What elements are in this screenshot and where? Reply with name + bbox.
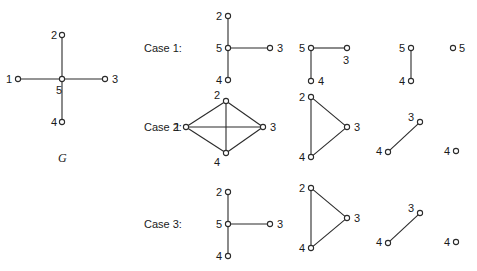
graph-node-case3-a-4 [225,253,230,258]
graph-node-G-4 [59,119,64,124]
graph-node-G-5 [59,76,64,81]
case-label-3: Case 3: [144,218,182,230]
node-label-G-5: 5 [56,84,62,96]
graph-node-case1-d-5 [450,45,455,50]
graph-node-case3-a-2 [225,189,230,194]
node-label-G-4: 4 [51,116,57,128]
node-label-case3-b-3: 3 [354,212,360,224]
graph-node-case2-d-4 [453,148,458,153]
graph-node-case3-a-3 [267,221,272,226]
node-label-case3-b-2: 2 [299,182,305,194]
graph-node-case2-a-4 [223,150,228,155]
node-label-case1-b-4: 4 [318,75,324,87]
graph-node-G-1 [15,76,20,81]
node-label-case1-a-4: 4 [216,74,222,86]
graph-figure: 52413254353454521342343442543234344 Case… [0,0,477,271]
graph-node-case1-b-3 [344,45,349,50]
graph-caption-G: G [58,151,67,165]
node-label-case1-b-5: 5 [299,42,305,54]
graph-node-G-2 [59,32,64,37]
node-label-case1-a-2: 2 [216,10,222,22]
node-label-case1-c-4: 4 [399,75,405,87]
graph-node-case1-c-4 [408,78,413,83]
case-label-2: Case 2: [144,121,182,133]
node-label-case1-d-5: 5 [459,42,465,54]
graph-node-case1-b-4 [308,78,313,83]
node-label-case2-b-2: 2 [299,91,305,103]
node-label-case1-a-5: 5 [216,42,222,54]
graph-node-case1-b-5 [308,45,313,50]
node-label-case2-c-4: 4 [376,145,382,157]
graph-node-case1-a-2 [225,13,230,18]
graph-node-case2-b-3 [344,124,349,129]
node-label-case3-d-4: 4 [444,236,450,248]
node-label-case2-b-4: 4 [299,151,305,163]
graph-node-case3-b-3 [344,215,349,220]
graph-node-case2-a-3 [260,124,265,129]
node-label-case1-c-5: 5 [399,42,405,54]
node-label-case3-a-2: 2 [216,186,222,198]
graph-node-case2-c-4 [385,149,390,154]
node-label-case2-d-4: 4 [444,145,450,157]
graph-node-case3-c-3 [417,210,422,215]
graph-node-case3-d-4 [453,239,458,244]
node-label-case2-c-3: 3 [408,111,414,123]
node-label-case3-a-5: 5 [216,218,222,230]
graph-node-case2-c-3 [417,119,422,124]
graph-node-case1-a-5 [225,45,230,50]
node-label-G-3: 3 [112,73,118,85]
node-label-G-1: 1 [6,73,12,85]
case-label-1: Case 1: [144,42,182,54]
node-label-case2-a-4: 4 [214,156,220,168]
node-label-G-2: 2 [51,29,57,41]
node-label-case2-a-3: 3 [270,121,276,133]
node-label-case3-a-3: 3 [277,218,283,230]
graph-node-G-3 [102,76,107,81]
graph-node-case3-b-4 [308,245,313,250]
node-label-case3-c-3: 3 [408,202,414,214]
node-label-case3-b-4: 4 [299,242,305,254]
node-label-case3-a-4: 4 [216,250,222,262]
graph-node-case1-a-4 [225,77,230,82]
graph-node-case1-a-3 [267,45,272,50]
graph-node-case3-c-4 [385,240,390,245]
graph-node-case3-b-2 [308,185,313,190]
graph-node-case2-a-1 [183,124,188,129]
graph-node-case1-c-5 [408,45,413,50]
node-label-case1-a-3: 3 [277,42,283,54]
graph-node-case3-a-5 [225,221,230,226]
graph-node-case2-b-4 [308,154,313,159]
node-label-case2-a-2: 2 [214,89,220,101]
node-label-case3-c-4: 4 [376,236,382,248]
node-label-case1-b-3: 3 [343,54,349,66]
graph-node-case2-b-2 [308,94,313,99]
node-label-case2-b-3: 3 [354,121,360,133]
graph-caption-layer: G [58,151,67,165]
graph-node-case2-a-2 [223,98,228,103]
